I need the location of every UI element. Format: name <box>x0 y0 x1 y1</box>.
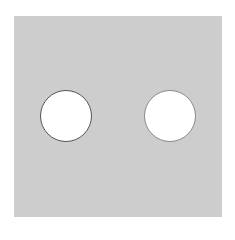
right-circle-hole <box>144 90 196 142</box>
left-circle-hole <box>40 90 92 142</box>
